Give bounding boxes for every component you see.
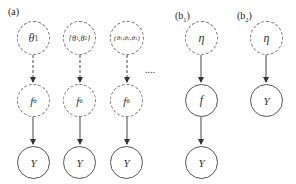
- node-y-1: Y: [17, 146, 50, 179]
- panel-b2-label: (b2): [237, 10, 252, 23]
- node-b1-f: f: [185, 84, 218, 117]
- panel-b1-label: (b1): [175, 10, 190, 23]
- node-b2-y: Y: [250, 84, 283, 117]
- node-theta123: {θ1,θ2,θ3}: [110, 21, 144, 55]
- node-y-3: Y: [110, 146, 143, 179]
- node-y-2: Y: [63, 146, 96, 179]
- node-theta12: {θ1,θ2}: [63, 21, 96, 55]
- node-f-theta-3: fθ: [110, 84, 143, 117]
- node-theta1: θ1: [17, 21, 50, 55]
- node-f-theta-1: fθ: [17, 84, 50, 117]
- node-b1-y: Y: [185, 146, 218, 179]
- ellipsis: ....: [145, 64, 155, 75]
- node-b2-eta: η: [250, 21, 283, 55]
- panel-a-label: (a): [8, 6, 19, 17]
- node-f-theta-2: fθ: [63, 84, 96, 117]
- node-b1-eta: η: [185, 21, 218, 55]
